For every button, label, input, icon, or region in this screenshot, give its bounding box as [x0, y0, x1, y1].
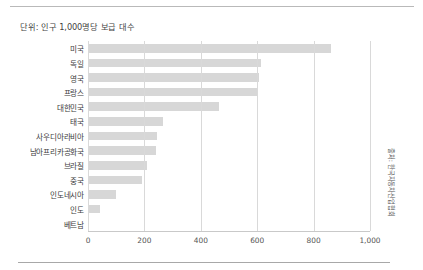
x-tick-label: 600	[250, 236, 264, 245]
category-label: 영국	[0, 73, 84, 84]
bar-row	[88, 41, 370, 56]
bar	[88, 88, 257, 97]
gridline-1000	[370, 41, 371, 231]
x-tick-label: 800	[307, 236, 321, 245]
bar-row	[88, 114, 370, 129]
bar	[88, 44, 331, 53]
top-divider	[10, 6, 414, 7]
x-tick-label: 200	[137, 236, 151, 245]
bar-row	[88, 143, 370, 158]
bar-row	[88, 129, 370, 144]
category-label: 사우디아라비아	[0, 131, 84, 142]
bar	[88, 102, 219, 111]
bottom-divider	[18, 262, 390, 263]
bar-row	[88, 70, 370, 85]
gridline-400	[201, 41, 202, 231]
category-label: 브라질	[0, 160, 84, 171]
category-label: 프랑스	[0, 87, 84, 98]
category-label: 대한민국	[0, 102, 84, 113]
source-note: 출처: 한국자동차산업협회	[387, 148, 396, 217]
bar	[88, 117, 163, 126]
bar-row	[88, 173, 370, 188]
gridline-600	[257, 41, 258, 231]
category-label: 독일	[0, 58, 84, 69]
x-tick-label: 1,000	[359, 236, 380, 245]
chart-subtitle: 단위: 인구 1,000명당 보급 대수	[20, 20, 135, 32]
bar	[88, 190, 116, 199]
category-label: 베트남	[0, 219, 84, 230]
x-tick-label: 0	[86, 236, 91, 245]
plot-area	[88, 41, 370, 231]
bar	[88, 176, 142, 185]
category-label: 남아프리카공화국	[0, 146, 84, 157]
gridline-200	[144, 41, 145, 231]
category-label: 인도	[0, 204, 84, 215]
bar-row	[88, 158, 370, 173]
gridline-0	[88, 41, 89, 231]
x-axis-line	[88, 231, 370, 232]
bar	[88, 161, 147, 170]
chart-figure: 단위: 인구 1,000명당 보급 대수 02004006008001,000 …	[0, 0, 423, 270]
bar	[88, 132, 157, 141]
category-label: 인도네시아	[0, 189, 84, 200]
bar-row	[88, 216, 370, 231]
x-tick-label: 400	[194, 236, 208, 245]
gridline-800	[314, 41, 315, 231]
bar	[88, 146, 156, 155]
bar	[88, 73, 259, 82]
bar	[88, 59, 261, 68]
bar	[88, 205, 100, 214]
bar-row	[88, 85, 370, 100]
bar-row	[88, 187, 370, 202]
category-label: 태국	[0, 116, 84, 127]
bar-row	[88, 99, 370, 114]
bar-row	[88, 202, 370, 217]
category-label: 미국	[0, 43, 84, 54]
category-label: 중국	[0, 175, 84, 186]
bar-row	[88, 56, 370, 71]
